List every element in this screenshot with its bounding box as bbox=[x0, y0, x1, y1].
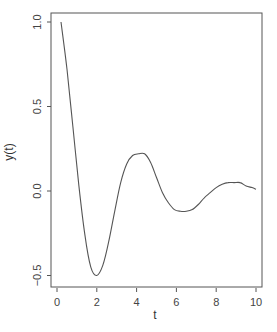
y-tick-label: 0.0 bbox=[31, 183, 43, 198]
y-tick-label: 1.0 bbox=[31, 14, 43, 29]
y-tick-label: −0.5 bbox=[31, 265, 43, 287]
x-axis-title: t bbox=[153, 308, 157, 322]
x-axis: 0246810 bbox=[54, 288, 262, 308]
y-axis-title: y(t) bbox=[2, 143, 16, 160]
line-chart: 0246810 1.00.50.0−0.5 t y(t) bbox=[0, 0, 277, 332]
x-tick-label: 6 bbox=[173, 296, 179, 308]
x-tick-label: 2 bbox=[94, 296, 100, 308]
y-axis: 1.00.50.0−0.5 bbox=[31, 14, 51, 286]
x-tick-label: 0 bbox=[54, 296, 60, 308]
x-tick-label: 4 bbox=[134, 296, 140, 308]
x-tick-label: 8 bbox=[213, 296, 219, 308]
data-line bbox=[61, 22, 256, 276]
plot-frame bbox=[51, 13, 262, 287]
y-tick-label: 0.5 bbox=[31, 99, 43, 114]
x-tick-label: 10 bbox=[250, 296, 262, 308]
